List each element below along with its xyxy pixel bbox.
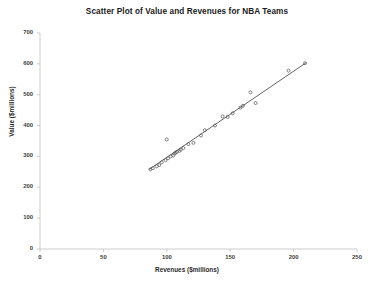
axis-lines bbox=[37, 33, 357, 252]
data-point-marker bbox=[254, 102, 257, 105]
data-point-marker bbox=[192, 141, 195, 144]
scatter-chart: Scatter Plot of Value and Revenues for N… bbox=[0, 0, 374, 290]
plot-area bbox=[0, 0, 374, 290]
data-point-marker bbox=[249, 91, 252, 94]
data-point-marker bbox=[158, 164, 161, 167]
data-point-marker bbox=[287, 69, 290, 72]
data-point-marker bbox=[165, 138, 168, 141]
data-point-marker bbox=[221, 115, 224, 118]
data-point-marker bbox=[182, 147, 185, 150]
